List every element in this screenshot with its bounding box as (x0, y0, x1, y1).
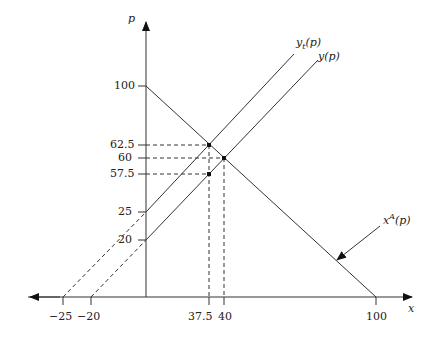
xtick-100: 100 (366, 310, 387, 323)
xtick-neg25: −25 (49, 310, 72, 323)
xA-label: xA(p) (383, 212, 411, 227)
xtick-37-5: 37.5 (188, 310, 213, 323)
ytick-62-5: 62.5 (110, 138, 135, 151)
xA-curve (146, 86, 376, 297)
y-label: y(p) (318, 50, 340, 63)
yt-curve (146, 54, 294, 212)
ytick-57-5: 57.5 (110, 167, 135, 180)
ytick-25: 25 (118, 205, 132, 218)
y-curve (146, 60, 318, 240)
ytick-60: 60 (118, 151, 132, 164)
ytick-100: 100 (114, 79, 135, 92)
diagram-canvas (0, 0, 436, 338)
ytick-20: 20 (118, 233, 132, 246)
yt-label: yt(p) (296, 36, 321, 51)
xtick-neg20: −20 (77, 310, 100, 323)
x-axis-label: x (408, 302, 414, 315)
y-axis-label: p (128, 12, 135, 25)
xtick-40: 40 (218, 310, 232, 323)
